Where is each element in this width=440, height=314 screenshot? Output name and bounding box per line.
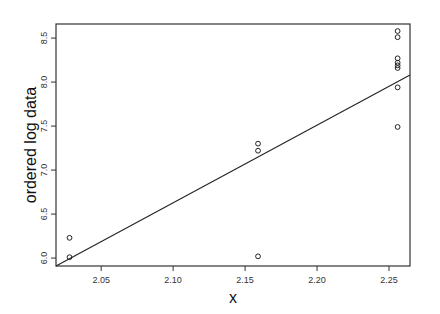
x-tick-label: 2.05 [92,275,110,285]
data-point [395,29,400,34]
y-tick-label: 6.5 [39,208,49,221]
data-point [256,141,261,146]
x-tick-label: 2.10 [164,275,182,285]
data-point [395,85,400,90]
y-axis-title: ordered log data [22,87,39,204]
x-tick-label: 2.20 [308,275,326,285]
x-axis-title: x [229,289,237,306]
data-point [256,148,261,153]
y-tick-label: 6.0 [39,252,49,265]
data-point [395,35,400,40]
y-tick-label: 7.5 [39,120,49,133]
scatter-chart: 2.052.102.152.202.25 6.06.57.07.58.08.5 … [0,0,440,314]
reference-line [56,75,410,266]
data-point [256,254,261,259]
data-point [67,235,72,240]
x-tick-label: 2.15 [236,275,254,285]
fit-line [56,75,410,266]
y-tick-label: 8.0 [39,76,49,89]
data-points [67,29,400,260]
y-tick-label: 7.0 [39,164,49,177]
x-axis: 2.052.102.152.202.25 [92,266,397,285]
data-point [395,125,400,130]
y-axis: 6.06.57.07.58.08.5 [39,32,56,265]
plot-frame [56,24,410,266]
x-tick-label: 2.25 [380,275,398,285]
y-tick-label: 8.5 [39,32,49,45]
